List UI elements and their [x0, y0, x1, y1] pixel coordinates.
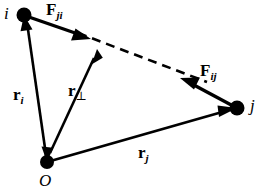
vector-r-i-shaft: [28, 26, 48, 162]
vector-r-j-shaft: [47, 112, 224, 163]
vector-r-i-subscript: i: [21, 94, 24, 106]
vector-f-ji-subscript: ji: [56, 9, 62, 21]
vector-f-ij-symbol: F: [200, 61, 210, 80]
vector-f-ij-subscript: ij: [210, 70, 216, 82]
point-j-label: j: [250, 97, 255, 114]
vector-f-ij-shaft: [192, 84, 235, 107]
vector-r-j-label: rj: [138, 144, 149, 164]
point-i-dot: [17, 8, 32, 23]
vector-r-i-label: ri: [13, 86, 24, 106]
vector-f-ji-symbol: F: [46, 0, 56, 19]
point-j-dot: [230, 101, 245, 116]
vector-r-j-symbol: r: [138, 143, 146, 162]
vector-r-perp-arrowhead-top: [92, 49, 103, 65]
diagram-canvas: [0, 0, 279, 195]
vector-f-ij-label: Fij: [200, 62, 217, 82]
vector-r-perp-subscript: ⊥: [76, 89, 87, 103]
vector-diagram-figure: i j O Fji Fij ri rj r⊥: [0, 0, 279, 195]
vector-r-j-subscript: j: [146, 152, 149, 164]
vector-f-ji-arrowhead: [71, 29, 91, 41]
vector-r-perp-label: r⊥: [68, 82, 87, 102]
point-origin-label: O: [39, 172, 51, 189]
point-i-label: i: [4, 5, 9, 22]
point-origin-dot: [40, 155, 54, 169]
vector-r-perp-symbol: r: [68, 81, 76, 100]
vector-f-ji-label: Fji: [46, 1, 63, 21]
vector-r-i-symbol: r: [13, 85, 21, 104]
vector-r-perp-shaft: [50, 58, 94, 153]
